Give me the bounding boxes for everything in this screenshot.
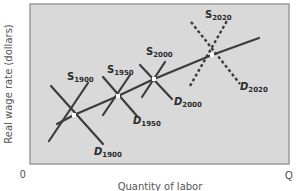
- y-axis-label: Real wage rate (dollars): [3, 24, 14, 144]
- labor-market-chart: S1900 S1950 S2000 S2020 D1900 D1950 D200…: [0, 0, 296, 191]
- equilibrium-point-1950: [116, 94, 120, 98]
- origin-label: 0: [20, 169, 26, 180]
- equilibrium-point-2000: [152, 77, 156, 81]
- equilibrium-point-1900: [72, 113, 76, 117]
- equilibrium-point-2020: [210, 53, 214, 57]
- x-axis-label: Quantity of labor: [118, 181, 204, 191]
- x-end-label: Q: [285, 170, 293, 181]
- plot-area: [30, 4, 289, 164]
